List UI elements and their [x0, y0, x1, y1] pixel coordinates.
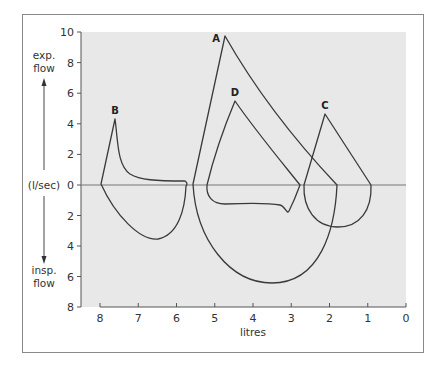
y-tick-label: 4 [67, 240, 74, 253]
y-tick-label: 6 [67, 271, 74, 284]
insp-flow-label-line1: insp. [31, 264, 56, 276]
y-ticks [77, 32, 81, 307]
curve-label-c: C [321, 100, 328, 111]
x-tick-label: 6 [173, 312, 180, 325]
curve-label-d: D [231, 87, 239, 98]
curve-label-b: B [111, 105, 119, 116]
x-tick-label: 7 [135, 312, 142, 325]
y-tick-label: 0 [67, 179, 74, 192]
x-tick-label: 8 [97, 312, 104, 325]
up-arrow-icon [42, 78, 47, 170]
plot-area [81, 32, 406, 307]
y-units-label: (l/sec) [28, 179, 60, 191]
y-tick-label: 4 [67, 118, 74, 131]
x-tick-label: 1 [364, 312, 371, 325]
y-tick-label: 10 [60, 26, 74, 39]
insp-flow-label-line2: flow [33, 277, 55, 289]
x-tick-label: 3 [288, 312, 295, 325]
x-tick-label: 2 [326, 312, 333, 325]
y-tick-label: 8 [67, 301, 74, 314]
y-tick-label: 2 [67, 210, 74, 223]
y-tick-label: 8 [67, 57, 74, 70]
x-axis-title: litres [240, 326, 266, 338]
x-tick-labels: 8 7 6 5 4 3 2 1 0 [97, 312, 410, 325]
down-arrow-icon [42, 196, 47, 264]
y-tick-label: 6 [67, 87, 74, 100]
curve-label-a: A [212, 33, 220, 44]
flow-volume-chart: 10 8 6 4 2 0 2 4 6 8 8 7 6 5 4 3 2 1 0 l… [0, 0, 439, 370]
exp-flow-label-line2: flow [33, 62, 55, 74]
exp-flow-label-line1: exp. [33, 49, 56, 61]
y-tick-labels: 10 8 6 4 2 0 2 4 6 8 [60, 26, 74, 314]
x-tick-label: 0 [403, 312, 410, 325]
y-tick-label: 2 [67, 148, 74, 161]
x-tick-label: 4 [250, 312, 257, 325]
x-tick-label: 5 [211, 312, 218, 325]
